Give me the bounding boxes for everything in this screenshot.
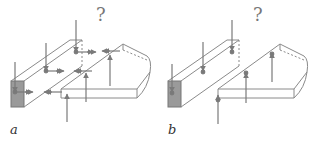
beam-end-face-a (11, 81, 24, 107)
force-arrows-b (170, 20, 274, 124)
question-mark-a: ? (96, 4, 106, 25)
panel-label-b: b (168, 122, 176, 137)
force-arrows-a (13, 20, 120, 122)
panel-label-a: a (10, 122, 18, 137)
diagram-canvas (0, 0, 321, 145)
panel-b (168, 40, 308, 107)
panel-a (11, 40, 151, 107)
question-mark-b: ? (253, 4, 263, 25)
